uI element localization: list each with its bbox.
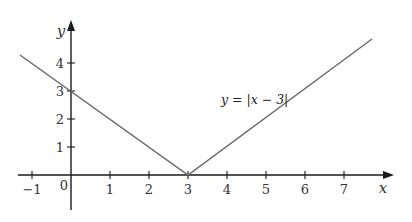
- x-tick-label: 1: [106, 182, 114, 197]
- y-tick-labels: 1 2 3 4: [56, 56, 64, 155]
- y-tick-label: 2: [56, 112, 64, 127]
- x-tick-label: 7: [340, 182, 348, 197]
- x-tick-label: 5: [262, 182, 270, 197]
- x-tick-label: −1: [22, 182, 41, 197]
- graph-line-abs-x-minus-3: [20, 39, 372, 175]
- x-tick-label: 3: [184, 182, 192, 197]
- graph-figure: −1 0 1 2 3 4 5 6 7 1 2 3 4 x y y = |x − …: [0, 0, 412, 222]
- y-axis-label: y: [56, 22, 66, 40]
- y-tick-label: 1: [56, 140, 64, 155]
- y-tick-label: 4: [56, 56, 64, 71]
- x-tick-label: 2: [145, 182, 153, 197]
- x-tick-label: 6: [301, 182, 309, 197]
- x-tick-label: 4: [223, 182, 231, 197]
- x-axis-arrow-icon: [383, 171, 394, 179]
- equation-label: y = |x − 3|: [220, 92, 288, 107]
- x-tick-label: 0: [60, 178, 68, 193]
- x-axis-label: x: [379, 179, 388, 197]
- y-axis-arrow-icon: [67, 20, 75, 31]
